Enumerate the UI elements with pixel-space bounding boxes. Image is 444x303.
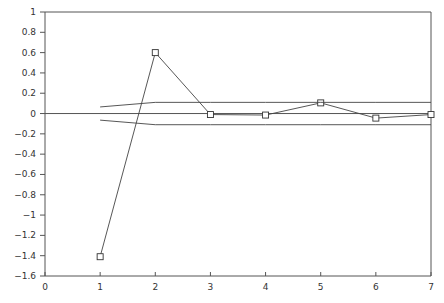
- y-tick-label: −1.4: [14, 251, 36, 261]
- autocorrelation-line: [100, 53, 431, 257]
- data-point-marker: [97, 254, 103, 260]
- y-tick-label: 0.2: [22, 88, 36, 98]
- y-tick-label: −0.8: [14, 190, 36, 200]
- y-tick-label: −0.2: [14, 129, 36, 139]
- y-tick-label: 0.6: [22, 48, 37, 58]
- y-tick-label: −1.6: [14, 271, 36, 281]
- y-tick-label: −0.4: [14, 149, 36, 159]
- y-tick-label: −1: [23, 210, 36, 220]
- x-axis: 01234567: [42, 272, 434, 292]
- chart: 10.80.60.40.20−0.2−0.4−0.6−0.8−1−1.2−1.4…: [0, 0, 444, 303]
- data-point-marker: [263, 112, 269, 118]
- plot-frame: [45, 12, 431, 276]
- x-tick-label: 6: [373, 282, 379, 292]
- data-point-marker: [428, 112, 434, 118]
- y-tick-label: 0.8: [22, 27, 37, 37]
- x-tick-label: 4: [263, 282, 269, 292]
- y-axis: 10.80.60.40.20−0.2−0.4−0.6−0.8−1−1.2−1.4…: [14, 7, 45, 281]
- x-tick-label: 2: [152, 282, 158, 292]
- upper-confidence-bound-line: [100, 102, 431, 107]
- data-point-marker: [373, 115, 379, 121]
- data-point-marker: [318, 100, 324, 106]
- x-tick-label: 7: [428, 282, 434, 292]
- y-tick-label: 1: [30, 7, 36, 17]
- y-tick-label: −0.6: [14, 169, 36, 179]
- x-tick-label: 1: [97, 282, 103, 292]
- series-group: [97, 50, 434, 260]
- lower-confidence-bound-line: [100, 120, 431, 125]
- x-tick-label: 0: [42, 282, 48, 292]
- y-tick-label: 0: [30, 109, 36, 119]
- x-tick-label: 5: [318, 282, 324, 292]
- data-point-marker: [152, 50, 158, 56]
- y-tick-label: 0.4: [22, 68, 37, 78]
- x-tick-label: 3: [208, 282, 214, 292]
- y-tick-label: −1.2: [14, 230, 36, 240]
- data-point-marker: [207, 112, 213, 118]
